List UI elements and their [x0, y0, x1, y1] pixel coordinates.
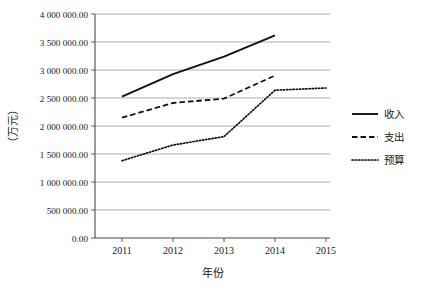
- series-line-income: [122, 35, 275, 96]
- legend-label-expenditure: 支出: [384, 131, 404, 143]
- y-tick-labels: 4 000 000.00 3 500 000.00 3 000 000.00 2…: [40, 10, 89, 244]
- x-tick-label: 2011: [112, 245, 132, 256]
- x-tick-marks: [122, 238, 326, 242]
- line-chart-figure: 4 000 000.00 3 500 000.00 3 000 000.00 2…: [0, 0, 433, 290]
- legend-label-budget: 预算: [384, 154, 404, 166]
- y-tick-label: 0.00: [72, 234, 88, 244]
- y-tick-label: 3 500 000.00: [40, 38, 89, 48]
- y-tick-label: 2 000 000.00: [40, 122, 89, 132]
- x-tick-label: 2012: [163, 245, 183, 256]
- y-tick-label: 1 500 000.00: [40, 150, 89, 160]
- legend-label-income: 收入: [384, 108, 405, 120]
- x-tick-label: 2013: [214, 245, 234, 256]
- y-axis-title: （万元）: [7, 104, 19, 148]
- gridlines: [95, 14, 330, 210]
- y-tick-label: 2 500 000.00: [40, 94, 89, 104]
- y-tick-label: 1 000 000.00: [40, 178, 89, 188]
- legend: 收入 支出 预算: [352, 108, 405, 166]
- y-tick-label: 500 000.00: [47, 206, 89, 216]
- y-tick-label: 4 000 000.00: [40, 10, 89, 20]
- y-tick-label: 3 000 000.00: [40, 66, 89, 76]
- x-axis-title: 年份: [202, 266, 224, 279]
- x-tick-labels: 2011 2012 2013 2014 2015: [112, 245, 336, 256]
- y-tick-marks: [91, 14, 95, 238]
- x-tick-label: 2014: [265, 245, 285, 256]
- x-tick-label: 2015: [316, 245, 336, 256]
